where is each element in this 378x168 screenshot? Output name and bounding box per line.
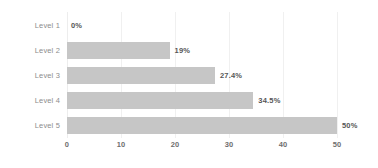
- x-tick-label: 40: [279, 140, 288, 149]
- x-tick-label: 10: [117, 140, 126, 149]
- bar[interactable]: [67, 117, 337, 134]
- value-label: 27.4%: [220, 67, 242, 84]
- value-label: 34.5%: [258, 92, 280, 109]
- bar-row: Level 2 19%: [0, 38, 378, 63]
- x-tick-label: 0: [65, 140, 69, 149]
- x-tick-label: 20: [171, 140, 180, 149]
- value-label: 50%: [342, 117, 358, 134]
- category-label: Level 1: [8, 13, 60, 38]
- bar-row: Level 3 27.4%: [0, 63, 378, 88]
- value-label: 19%: [175, 42, 191, 59]
- category-label: Level 2: [8, 38, 60, 63]
- x-tick-label: 30: [225, 140, 234, 149]
- category-label: Level 3: [8, 63, 60, 88]
- bar-row: Level 4 34.5%: [0, 88, 378, 113]
- category-label: Level 5: [8, 113, 60, 138]
- bar[interactable]: [67, 67, 215, 84]
- bar-chart: Level 1 0% Level 2 19% Level 3 27.4% Lev…: [0, 0, 378, 168]
- bar-row: Level 1 0%: [0, 13, 378, 38]
- bar[interactable]: [67, 92, 253, 109]
- bar-row: Level 5 50%: [0, 113, 378, 138]
- value-label: 0%: [71, 17, 82, 34]
- category-label: Level 4: [8, 88, 60, 113]
- x-tick-label: 50: [333, 140, 342, 149]
- bar[interactable]: [67, 42, 170, 59]
- x-axis: 0 10 20 30 40 50: [0, 140, 378, 156]
